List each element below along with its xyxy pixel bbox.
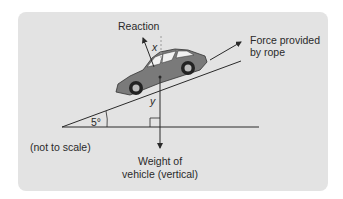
not-to-scale-note: (not to scale): [30, 141, 91, 153]
angle-label: 5°: [91, 116, 101, 128]
angle-x-label: x: [152, 41, 157, 53]
force-label-line1: Force provided: [250, 34, 320, 46]
angle-arc: [106, 111, 107, 127]
force-label-line2: by rope: [250, 46, 285, 58]
angle-y-label: y: [150, 95, 155, 107]
rope-force-arrow: [210, 42, 241, 60]
car-icon: [116, 49, 207, 95]
weight-label-line2: vehicle (vertical): [110, 168, 210, 180]
right-angle-marker: [150, 118, 160, 127]
reaction-label: Reaction: [118, 20, 159, 32]
weight-label-line1: Weight of: [110, 155, 210, 167]
